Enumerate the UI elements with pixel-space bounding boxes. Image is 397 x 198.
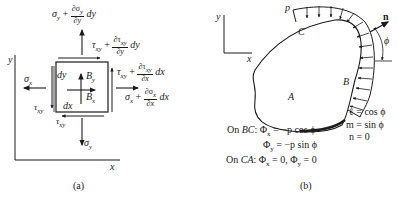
fig-b-axes (224, 15, 252, 53)
dx-label: dx (63, 101, 72, 111)
caption-b: (b) (300, 180, 312, 191)
left-shear-label: τxy (34, 103, 43, 115)
caption-a: (a) (73, 180, 84, 191)
top-shear-label: τxy + ∂τxy∂y dy (92, 36, 140, 56)
point-b-label: B (343, 77, 349, 87)
pressure-band (293, 7, 374, 117)
diagram-canvas (0, 0, 397, 198)
right-stress-label: σx + ∂σx∂x dx (125, 88, 169, 108)
normal-vector (370, 22, 388, 32)
left-stress-label: σx (24, 74, 32, 87)
body-force-x-label: Bx (86, 92, 95, 105)
point-a-label: A (288, 92, 294, 102)
condition-bc-x: On BC: Φx = −p cos ϕ (227, 125, 315, 138)
right-shear-label: τxy + ∂τxy∂x dx (117, 63, 165, 83)
element-square (52, 58, 112, 116)
bottom-stress-label: σy (84, 138, 92, 151)
angle-arc (376, 30, 383, 60)
condition-ca: On CA: Φx = 0, Φy = 0 (226, 155, 317, 168)
direction-cosine-m: m = sin ϕ (346, 120, 384, 130)
axis-x-label-a: x (110, 162, 114, 172)
direction-cosine-l: ℓ = cos ϕ (349, 107, 386, 117)
bottom-shear-label: τxy (56, 117, 65, 129)
axis-x-label-b: x (247, 54, 251, 64)
pressure-arrows (307, 6, 373, 110)
axis-y-label-a: y (8, 55, 12, 65)
dy-label: dy (57, 70, 66, 80)
point-c-label: C (298, 27, 305, 37)
axis-y-label-b: y (216, 12, 220, 22)
load-p-label: p (285, 3, 290, 13)
body-force-y-label: By (86, 71, 95, 84)
direction-cosine-n: n = 0 (349, 132, 370, 142)
condition-bc-y: Φy = −p sin ϕ (263, 140, 317, 153)
top-stress-label: σy + ∂σy∂y dy (52, 5, 96, 25)
normal-n-label: n (383, 12, 389, 22)
angle-phi-label: ϕ (384, 36, 389, 46)
